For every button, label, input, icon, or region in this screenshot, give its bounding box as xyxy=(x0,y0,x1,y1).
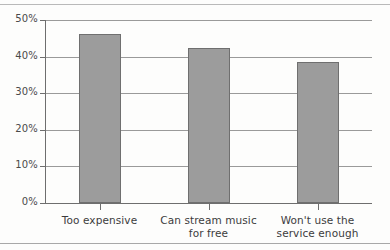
bar[interactable] xyxy=(188,48,230,203)
x-axis-label-line: Won't use the xyxy=(253,214,383,227)
bar[interactable] xyxy=(79,34,121,203)
x-axis-label: Won't use theservice enough xyxy=(253,214,383,240)
bar-chart-figure: 0%10%20%30%40%50% Too expensiveCan strea… xyxy=(0,0,390,250)
y-axis-label: 0% xyxy=(0,197,38,207)
y-axis-label: 20% xyxy=(0,124,38,134)
gridline xyxy=(45,20,372,21)
bar[interactable] xyxy=(297,62,339,203)
page-rule-bottom xyxy=(0,243,390,244)
page-rule-top xyxy=(0,4,390,5)
y-axis-label: 30% xyxy=(0,87,38,97)
x-axis-tick xyxy=(318,204,319,210)
x-axis-label-line: service enough xyxy=(253,227,383,240)
x-axis-tick xyxy=(209,204,210,210)
y-axis-label: 50% xyxy=(0,14,38,24)
y-axis-label: 40% xyxy=(0,51,38,61)
y-axis-line xyxy=(45,20,46,204)
y-axis-label: 10% xyxy=(0,160,38,170)
x-axis-tick xyxy=(100,204,101,210)
